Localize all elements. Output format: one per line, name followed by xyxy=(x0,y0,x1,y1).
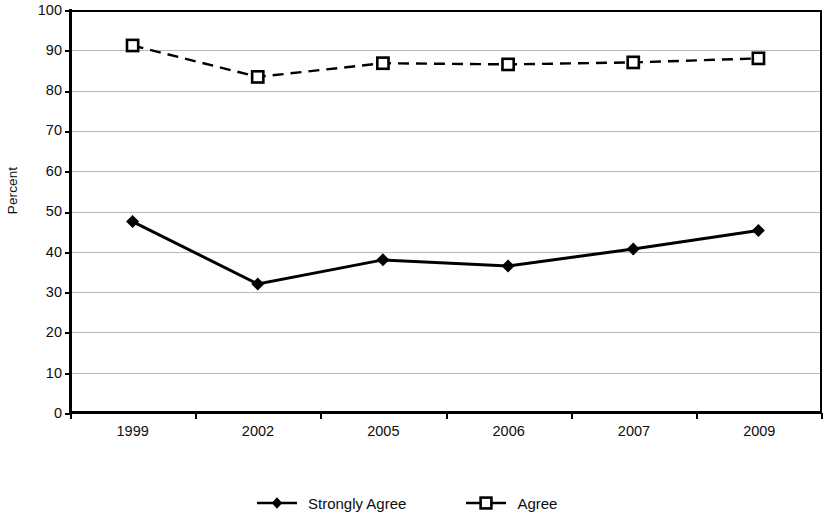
legend-item-strongly-agree: Strongly Agree xyxy=(255,495,406,511)
data-point-marker-diamond xyxy=(502,259,515,272)
legend-label: Strongly Agree xyxy=(308,496,406,511)
data-point-marker-diamond xyxy=(376,253,389,266)
line-chart: Percent 100 90 80 70 60 50 40 30 20 10 0… xyxy=(0,0,834,519)
x-tick-label: 2009 xyxy=(697,424,822,454)
data-point-marker-square xyxy=(753,53,764,64)
data-point-marker-diamond xyxy=(627,242,640,255)
legend-item-agree: Agree xyxy=(464,495,557,511)
x-tick-label: 2002 xyxy=(195,424,320,454)
data-point-marker-square xyxy=(252,71,263,82)
x-tick-label: 2006 xyxy=(446,424,571,454)
x-axis-tick-labels: 1999 2002 2005 2006 2007 2009 xyxy=(70,424,822,454)
gridlines xyxy=(70,51,821,374)
x-tick-label: 2005 xyxy=(321,424,446,454)
data-point-marker-square xyxy=(628,57,639,68)
data-point-marker-square xyxy=(127,40,138,51)
open-square-icon xyxy=(464,495,508,511)
plot-area xyxy=(0,0,834,470)
chart-legend: Strongly Agree Agree xyxy=(255,487,615,519)
x-tick-label: 2007 xyxy=(571,424,696,454)
legend-label: Agree xyxy=(517,496,557,511)
data-point-marker-square xyxy=(502,59,513,70)
data-point-marker-diamond xyxy=(126,215,139,228)
data-point-marker-square xyxy=(377,58,388,69)
series-agree xyxy=(127,40,764,83)
data-point-marker-diamond xyxy=(752,224,765,237)
x-tick-label: 1999 xyxy=(70,424,195,454)
data-point-marker-diamond xyxy=(251,278,264,291)
filled-diamond-icon xyxy=(255,495,299,511)
